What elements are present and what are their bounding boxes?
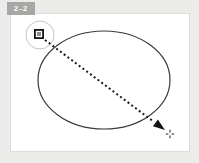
- figure-frame: 2-2: [0, 0, 199, 163]
- ellipse-shape: [38, 31, 170, 129]
- drag-path-dotted-line: [45, 40, 154, 122]
- crosshair-cursor-icon: [166, 130, 174, 138]
- node-handle-inner-fill: [37, 32, 41, 36]
- figure-artwork: [0, 0, 199, 163]
- arrowhead-icon: [153, 119, 165, 130]
